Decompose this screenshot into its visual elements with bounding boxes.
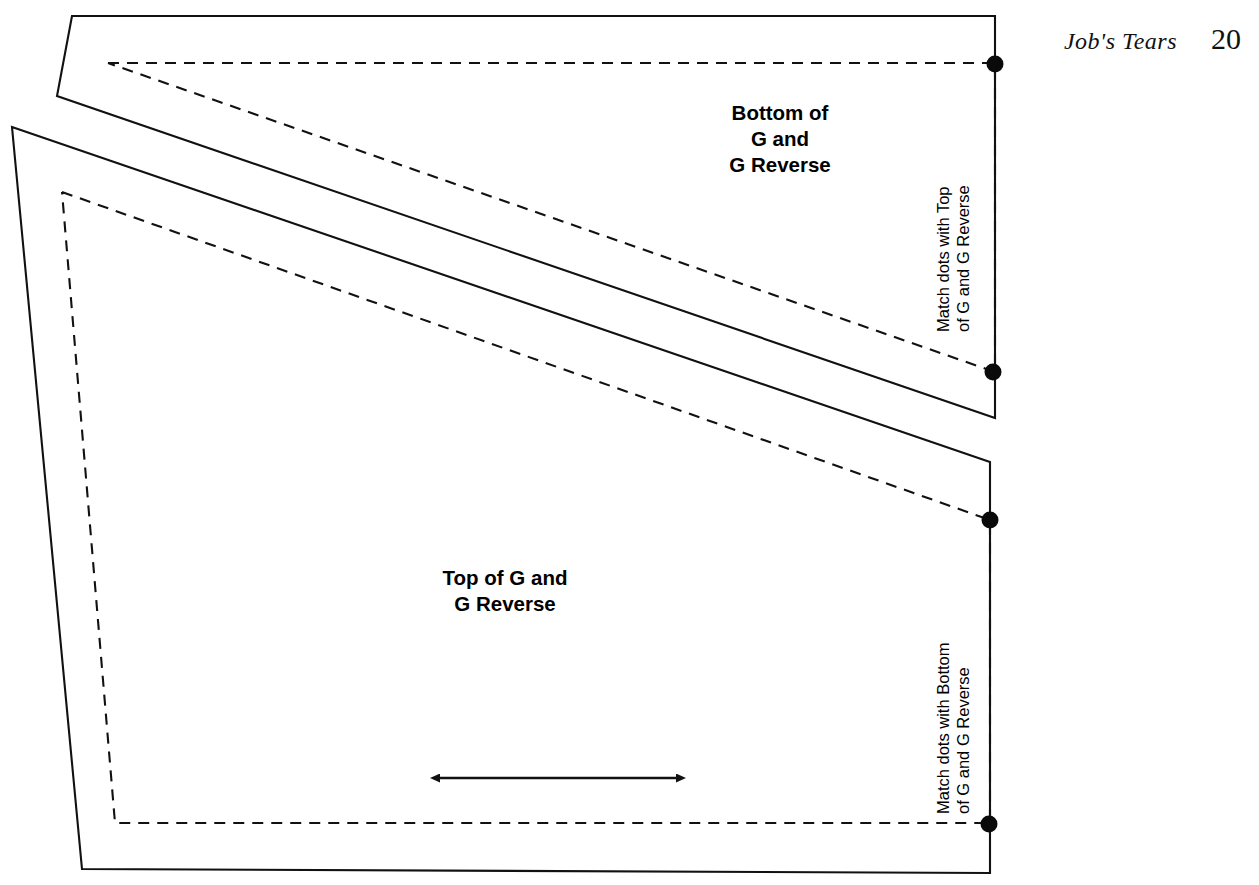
match-note-bottom-g: Match dots with Top of G and G Reverse [934, 185, 974, 332]
match-dot [985, 364, 1002, 381]
match-note-top-g: Match dots with Bottom of G and G Revers… [934, 643, 974, 815]
match-dot [981, 816, 998, 833]
match-dot [982, 512, 999, 529]
pattern-drawing [0, 0, 1259, 885]
piece-label-bottom-g: Bottom of G and G Reverse [660, 100, 900, 179]
piece-label-top-g: Top of G and G Reverse [380, 565, 630, 617]
book-title: Job's Tears [1064, 28, 1177, 55]
running-head: Job's Tears 20 [1064, 22, 1241, 56]
match-dot [987, 56, 1004, 73]
pattern-page: Job's Tears 20 Bottom of G and G Reverse… [0, 0, 1259, 885]
page-number: 20 [1211, 22, 1241, 56]
